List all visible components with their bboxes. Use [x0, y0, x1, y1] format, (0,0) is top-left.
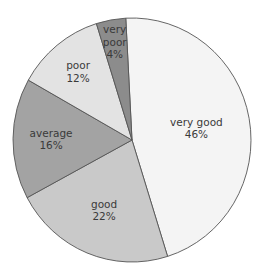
slice-percent-label: 4%	[106, 48, 123, 60]
pie-chart: very good46%good22%average16%poor12%very…	[0, 0, 262, 279]
slice-category-label: poor	[66, 59, 91, 71]
slice-category-label: poor	[103, 36, 128, 48]
slice-category-label: good	[91, 198, 117, 210]
slice-category-label: average	[30, 127, 73, 139]
slice-percent-label: 12%	[66, 72, 89, 84]
slice-percent-label: 16%	[39, 139, 62, 151]
slice-percent-label: 22%	[92, 210, 115, 222]
slice-category-label: very good	[170, 116, 223, 128]
slice-category-label: very	[103, 23, 126, 35]
slice-percent-label: 46%	[185, 128, 208, 140]
